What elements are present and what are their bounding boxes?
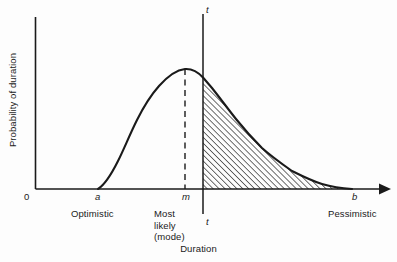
marker-label-b: b	[352, 191, 357, 203]
y-axis-title-wrapper: Probability of duration	[5, 30, 19, 170]
marker-label-a: a	[95, 191, 100, 203]
marker-label-t-bottom: t	[206, 216, 209, 228]
marker-label-m: m	[182, 191, 190, 203]
caption-optimistic: Optimistic	[71, 208, 114, 220]
beta-distribution-figure: Probability of duration Duration 0 a m b…	[0, 0, 397, 262]
caption-most-likely: Most likely (mode)	[154, 208, 185, 243]
plot-canvas	[0, 0, 397, 262]
x-axis-arrowhead	[379, 184, 391, 195]
x-axis-title: Duration	[0, 243, 397, 254]
marker-label-t-top: t	[206, 4, 209, 16]
caption-pessimistic: Pessimistic	[328, 208, 377, 220]
origin-label: 0	[24, 191, 29, 203]
shaded-tail-region	[200, 60, 360, 192]
y-axis-title: Probability of duration	[7, 53, 18, 147]
